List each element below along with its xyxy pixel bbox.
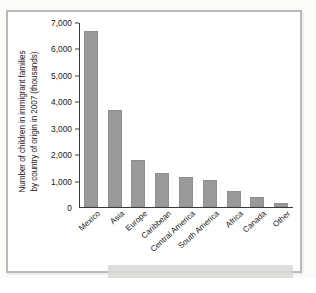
- scan-artifact-band: [108, 265, 293, 279]
- y-tick-label: 6,000: [38, 44, 72, 54]
- x-axis-tick-labels: MexicoAsiaEuropeCaribbeanCentral America…: [79, 209, 309, 269]
- y-axis-title: Number of children in immigrant families…: [17, 22, 40, 222]
- y-axis-title-line1: Number of children in immigrant families: [17, 22, 29, 222]
- bar-series: [79, 23, 293, 207]
- y-tick-label: 4,000: [38, 97, 72, 107]
- scanned-page: Number of children in immigrant families…: [0, 0, 316, 293]
- page-bottom-margin: [0, 278, 316, 293]
- y-axis-tick-labels: 7,000 6,000 5,000 4,000 3,000 2,000 1,00…: [38, 0, 72, 293]
- y-tick-label: 5,000: [38, 71, 72, 81]
- bar: [84, 31, 98, 207]
- y-tick-label: 0: [38, 203, 72, 213]
- chart-plot-area: Number of children in immigrant families…: [0, 0, 316, 293]
- y-tick-label: 3,000: [38, 124, 72, 134]
- y-tick-label: 1,000: [38, 177, 72, 187]
- y-tick-label: 7,000: [38, 18, 72, 28]
- y-tick-label: 2,000: [38, 150, 72, 160]
